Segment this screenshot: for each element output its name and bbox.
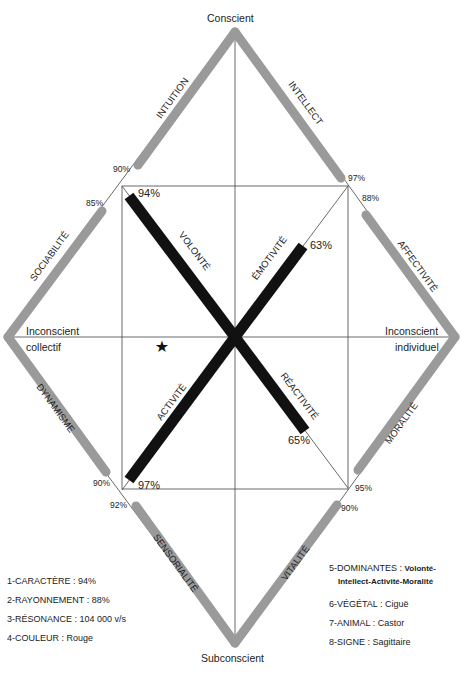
- value-emotivite: 63%: [310, 239, 332, 251]
- value-sociabilite: 85%: [86, 198, 103, 208]
- pole-left-label-2: collectif: [26, 341, 61, 353]
- value-volonte: 94%: [138, 187, 160, 199]
- pole-left-label-1: Inconscient: [26, 325, 79, 337]
- bar-moralite: [358, 337, 455, 470]
- legend-item: 4-COULEUR : Rouge: [7, 629, 126, 648]
- legend-item: 2-RAYONNEMENT : 88%: [7, 591, 126, 610]
- pole-right-label-1: Inconscient: [385, 325, 438, 337]
- value-affectivite: 88%: [362, 193, 379, 203]
- label-vitalite: VITALITÉ: [279, 543, 312, 582]
- label-dynamisme: DYNAMISME: [34, 381, 77, 434]
- bar-affectivite: [366, 215, 455, 337]
- value-reactivite: 65%: [288, 434, 310, 446]
- pole-top-label: Conscient: [207, 12, 254, 24]
- legend-right: 5-DOMINANTES : Volonté- Intellect-Activi…: [329, 562, 436, 652]
- legend-item-continuation: Intellect-Activité-Moralité: [329, 575, 436, 588]
- legend-item: 6-VÉGÉTAL : Ciguë: [329, 595, 436, 614]
- value-dynamisme: 90%: [93, 478, 110, 488]
- bar-intellect: [235, 32, 341, 178]
- value-sensorialite: 92%: [110, 500, 127, 510]
- legend-item: 7-ANIMAL : Castor: [329, 614, 436, 633]
- value-intuition: 90%: [113, 164, 130, 174]
- value-vitalite: 90%: [341, 503, 358, 513]
- value-activite: 97%: [138, 479, 160, 491]
- value-moralite: 95%: [355, 483, 372, 493]
- bar-intuition: [138, 32, 235, 165]
- label-intellect: INTELLECT: [286, 79, 325, 127]
- label-sensorialite: SENSORIALITÉ: [151, 532, 201, 594]
- bar-activite: [129, 337, 235, 480]
- pole-right-label-2: individuel: [395, 341, 439, 353]
- legend-item: 5-DOMINANTES : Volonté-: [329, 562, 436, 575]
- legend-left: 1-CARACTÈRE : 94% 2-RAYONNEMENT : 88% 3-…: [7, 572, 126, 648]
- star-marker-icon: ★: [155, 337, 169, 356]
- legend-item: 3-RÉSONANCE : 104 000 v/s: [7, 610, 126, 629]
- pole-bottom-label: Subconscient: [201, 652, 264, 664]
- legend-item: 1-CARACTÈRE : 94%: [7, 572, 126, 591]
- legend-item: 8-SIGNE : Sagittaire: [329, 633, 436, 652]
- bar-volonte: [129, 196, 235, 337]
- bar-sociabilite: [8, 211, 102, 337]
- value-intellect: 97%: [348, 173, 365, 183]
